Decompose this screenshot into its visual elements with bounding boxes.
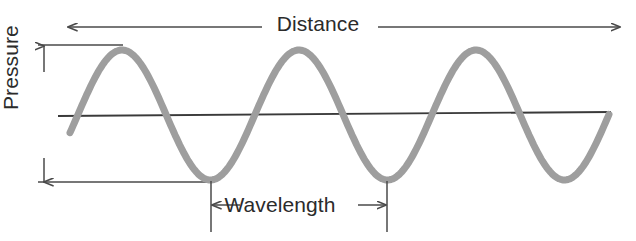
distance-label: Distance xyxy=(0,13,636,34)
wave-diagram: Distance Pressure Wavelength xyxy=(0,0,636,241)
wavelength-label: Wavelength xyxy=(0,194,636,215)
baseline-axis xyxy=(58,112,611,116)
wavelength-label-text: Wavelength xyxy=(224,194,335,215)
pressure-label: Pressure xyxy=(0,25,21,110)
